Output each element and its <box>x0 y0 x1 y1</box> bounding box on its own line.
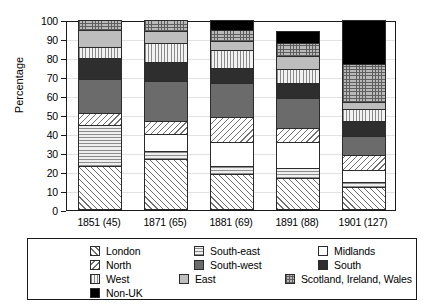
bar-segment-west[interactable] <box>210 50 254 67</box>
y-axis-tick: 50 <box>0 111 66 122</box>
y-axis-tick: 0 <box>0 206 66 217</box>
bar-segment-south-west[interactable] <box>342 136 386 155</box>
bar-segment-south-west[interactable] <box>276 98 320 128</box>
legend-label: Scotland, Ireland, Wales <box>301 274 412 285</box>
bar-segment-east[interactable] <box>342 102 386 110</box>
bar-1851[interactable] <box>78 20 122 210</box>
legend-swatch-icon <box>90 260 100 270</box>
bar-segment-north[interactable] <box>210 117 254 142</box>
legend-row: LondonSouth-eastMidlands <box>90 244 412 258</box>
bar-segment-south[interactable] <box>276 83 320 98</box>
bar-segment-london[interactable] <box>78 166 122 210</box>
bar-segment-south-east[interactable] <box>210 166 254 174</box>
bar-segment-non-uk[interactable] <box>342 20 386 64</box>
bar-1891[interactable] <box>276 20 320 210</box>
bar-segment-south[interactable] <box>210 68 254 83</box>
bar-segment-north[interactable] <box>78 113 122 124</box>
y-axis-tick-label: 80 <box>47 54 58 65</box>
bar-segment-london[interactable] <box>210 174 254 210</box>
bar-segment-london[interactable] <box>144 159 188 210</box>
legend-item[interactable]: South-west <box>194 260 318 271</box>
legend-row: NorthSouth-westSouth <box>90 258 412 272</box>
legend-item[interactable]: North <box>90 260 194 271</box>
bar-segment-west[interactable] <box>144 43 188 62</box>
legend-label: South-east <box>210 246 260 257</box>
legend-item[interactable]: Non-UK <box>90 288 194 299</box>
y-axis-tick-label: 100 <box>41 16 58 27</box>
bar-segment-south[interactable] <box>78 58 122 79</box>
chart-legend: LondonSouth-eastMidlandsNorthSouth-westS… <box>27 238 417 300</box>
y-axis-tick: 40 <box>0 130 66 141</box>
y-axis-tick-label: 0 <box>52 206 58 217</box>
y-axis-tick-label: 10 <box>47 187 58 198</box>
bar-segment-south-east[interactable] <box>342 182 386 188</box>
bar-segment-west[interactable] <box>342 109 386 120</box>
bar-segment-west[interactable] <box>276 69 320 82</box>
bar-segment-scotland-ireland-wales[interactable] <box>210 30 254 41</box>
bar-segment-non-uk[interactable] <box>276 31 320 42</box>
legend-item[interactable]: Scotland, Ireland, Wales <box>285 274 412 285</box>
bar-segment-south[interactable] <box>342 121 386 136</box>
bar-segment-london[interactable] <box>276 178 320 210</box>
bar-segment-north[interactable] <box>342 155 386 170</box>
bar-segment-north[interactable] <box>144 121 188 134</box>
y-axis-tick-label: 50 <box>47 111 58 122</box>
legend-swatch-icon <box>285 274 295 284</box>
legend-item[interactable]: South <box>318 260 361 271</box>
y-axis-tick: 30 <box>0 149 66 160</box>
y-axis-tick: 10 <box>0 187 66 198</box>
bar-segment-scotland-ireland-wales[interactable] <box>276 43 320 56</box>
y-axis-tick-label: 30 <box>47 149 58 160</box>
bar-segment-south[interactable] <box>144 62 188 81</box>
legend-item[interactable]: South-east <box>194 246 318 257</box>
bar-segment-scotland-ireland-wales[interactable] <box>342 64 386 102</box>
legend-swatch-icon <box>318 260 328 270</box>
bar-segment-midlands[interactable] <box>276 142 320 169</box>
legend-item[interactable]: East <box>179 274 285 285</box>
y-axis-tick-label: 70 <box>47 73 58 84</box>
bar-segment-west[interactable] <box>78 47 122 58</box>
legend-label: West <box>106 274 129 285</box>
bar-segment-north[interactable] <box>276 128 320 141</box>
y-axis-tick: 90 <box>0 35 66 46</box>
legend-item[interactable]: Midlands <box>318 246 375 257</box>
bar-segment-south-east[interactable] <box>78 125 122 167</box>
bar-segment-south-west[interactable] <box>144 81 188 121</box>
plot-area <box>66 21 396 211</box>
legend-label: South-west <box>210 260 262 271</box>
legend-label: East <box>195 274 216 285</box>
bar-1881[interactable] <box>210 20 254 210</box>
bar-segment-london[interactable] <box>342 187 386 210</box>
bar-segment-east[interactable] <box>78 30 122 47</box>
legend-swatch-icon <box>179 274 189 284</box>
y-axis-tick: 20 <box>0 168 66 179</box>
y-axis-tick-label: 90 <box>47 35 58 46</box>
bar-segment-south-east[interactable] <box>276 168 320 178</box>
bar-segment-non-uk[interactable] <box>210 20 254 30</box>
bar-segment-east[interactable] <box>144 31 188 42</box>
bar-segment-east[interactable] <box>210 41 254 51</box>
y-axis-tick-label: 60 <box>47 92 58 103</box>
legend-label: Non-UK <box>106 288 143 299</box>
legend-label: North <box>106 260 131 271</box>
bar-segment-midlands[interactable] <box>144 134 188 151</box>
bar-segment-midlands[interactable] <box>342 170 386 181</box>
y-axis-tick: 100 <box>0 16 66 27</box>
bar-segment-east[interactable] <box>276 56 320 69</box>
y-axis-tick: 80 <box>0 54 66 65</box>
legend-item[interactable]: West <box>90 274 179 285</box>
bar-segment-south-east[interactable] <box>144 151 188 159</box>
bar-segment-midlands[interactable] <box>210 142 254 167</box>
stacked-bar-chart: Percentage 0102030405060708090100 1851 (… <box>0 0 442 305</box>
bar-1901[interactable] <box>342 20 386 210</box>
y-axis-tick: 70 <box>0 73 66 84</box>
bar-1871[interactable] <box>144 20 188 210</box>
bar-segment-scotland-ireland-wales[interactable] <box>78 20 122 30</box>
bar-segment-south-west[interactable] <box>210 83 254 117</box>
legend-label: Midlands <box>334 246 375 257</box>
legend-item[interactable]: London <box>90 246 194 257</box>
bar-segment-south-west[interactable] <box>78 79 122 113</box>
y-axis-tick-label: 20 <box>47 168 58 179</box>
bar-segment-scotland-ireland-wales[interactable] <box>144 20 188 31</box>
y-axis: 0102030405060708090100 <box>0 0 66 232</box>
